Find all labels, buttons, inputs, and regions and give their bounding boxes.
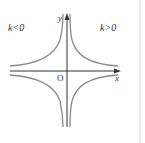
label-x-axis: x bbox=[114, 73, 119, 83]
label-origin: O bbox=[57, 73, 64, 83]
label-y-axis: y bbox=[57, 13, 62, 23]
label-k-negative: k<0 bbox=[8, 22, 24, 33]
y-axis-arrow-icon bbox=[65, 13, 70, 20]
label-k-positive: k>0 bbox=[100, 22, 116, 33]
curve-quadrant-4 bbox=[70, 75, 118, 127]
hyperbola-diagram: k<0 k>0 O x y bbox=[0, 0, 145, 143]
curve-quadrant-3 bbox=[10, 75, 63, 127]
axes bbox=[10, 17, 118, 127]
